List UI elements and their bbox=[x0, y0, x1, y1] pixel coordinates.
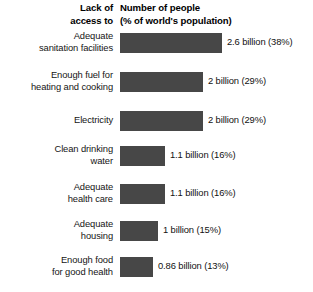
table-row: Electricity 2 billion (29%) bbox=[0, 108, 313, 142]
row-label-line-1: Electricity bbox=[0, 114, 113, 126]
row-label: Clean drinking water bbox=[0, 143, 113, 166]
bar bbox=[120, 221, 158, 241]
header-category-line-1: Lack of bbox=[0, 2, 113, 15]
row-label-line-2: sanitation facilities bbox=[0, 42, 113, 54]
bar-value-label: 1.1 billion (16%) bbox=[170, 187, 236, 199]
bar-value-label: 0.86 billion (13%) bbox=[158, 260, 229, 272]
table-row: Enough food for good health 0.86 billion… bbox=[0, 254, 313, 288]
bar-value-label: 2 billion (29%) bbox=[208, 114, 266, 126]
bar bbox=[120, 257, 153, 277]
bar-chart: Lack of access to Number of people (% of… bbox=[0, 0, 313, 292]
bar-value-label: 1 billion (15%) bbox=[163, 224, 221, 236]
row-label-line-1: Adequate bbox=[0, 30, 113, 42]
bar bbox=[120, 33, 222, 53]
row-label: Adequate health care bbox=[0, 181, 113, 204]
header-category-column: Lack of access to bbox=[0, 2, 113, 27]
bar-value-label: 1.1 billion (16%) bbox=[170, 149, 236, 161]
row-label-line-1: Clean drinking bbox=[0, 143, 113, 155]
header-value-column: Number of people (% of world's populatio… bbox=[120, 2, 313, 27]
row-label: Enough fuel for heating and cooking bbox=[0, 69, 113, 92]
bar bbox=[120, 111, 203, 131]
row-label-line-1: Adequate bbox=[0, 218, 113, 230]
row-label-line-1: Adequate bbox=[0, 181, 113, 193]
header-value-line-2: (% of world's population) bbox=[120, 15, 313, 28]
column-headers: Lack of access to Number of people (% of… bbox=[0, 2, 313, 30]
row-label: Adequate sanitation facilities bbox=[0, 30, 113, 53]
table-row: Adequate sanitation facilities 2.6 billi… bbox=[0, 30, 313, 64]
bar bbox=[120, 72, 203, 92]
row-label-line-2: health care bbox=[0, 193, 113, 205]
table-row: Adequate health care 1.1 billion (16%) bbox=[0, 181, 313, 215]
header-value-line-1: Number of people bbox=[120, 2, 313, 15]
row-label: Enough food for good health bbox=[0, 254, 113, 277]
bar bbox=[120, 146, 165, 166]
row-label-line-2: heating and cooking bbox=[0, 81, 113, 93]
row-label-line-1: Enough food bbox=[0, 254, 113, 266]
table-row: Adequate housing 1 billion (15%) bbox=[0, 218, 313, 252]
row-label-line-2: housing bbox=[0, 230, 113, 242]
bar-value-label: 2.6 billion (38%) bbox=[227, 36, 293, 48]
row-label-line-1: Enough fuel for bbox=[0, 69, 113, 81]
row-label-line-2: for good health bbox=[0, 266, 113, 278]
bar-value-label: 2 billion (29%) bbox=[208, 75, 266, 87]
row-label: Electricity bbox=[0, 114, 113, 126]
row-label: Adequate housing bbox=[0, 218, 113, 241]
table-row: Clean drinking water 1.1 billion (16%) bbox=[0, 143, 313, 177]
bar bbox=[120, 184, 165, 204]
row-label-line-2: water bbox=[0, 155, 113, 167]
header-category-line-2: access to bbox=[0, 15, 113, 28]
table-row: Enough fuel for heating and cooking 2 bi… bbox=[0, 69, 313, 103]
